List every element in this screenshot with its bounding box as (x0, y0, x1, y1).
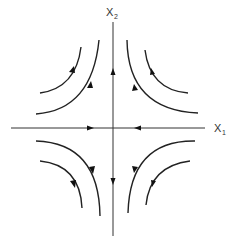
arrow-left-icon (134, 126, 141, 131)
phase-portrait-diagram: X 2 X 1 (0, 0, 234, 238)
svg-text:1: 1 (222, 129, 226, 136)
trajectory-lower-left-inner (40, 161, 82, 208)
x2-axis-label: X 2 (106, 6, 118, 20)
trajectory-upper-left-outer (36, 40, 99, 114)
trajectory-lower-left-outer (36, 141, 100, 216)
arrow-icon (70, 180, 76, 188)
arrow-icon (69, 66, 75, 73)
svg-text:2: 2 (114, 13, 118, 20)
trajectory-lower-right-outer (128, 141, 195, 213)
trajectory-upper-right-outer (127, 40, 198, 113)
svg-text:X: X (214, 122, 222, 134)
arrow-right-icon (87, 126, 94, 131)
x1-axis-label: X 1 (214, 122, 226, 136)
arrow-up-icon (111, 68, 116, 75)
svg-text:X: X (106, 6, 114, 18)
arrow-down-icon (111, 178, 116, 185)
arrow-icon (132, 84, 138, 91)
trajectory-upper-left-inner (40, 47, 81, 93)
